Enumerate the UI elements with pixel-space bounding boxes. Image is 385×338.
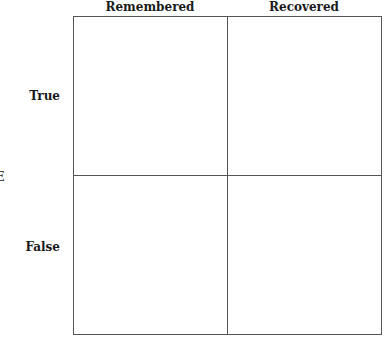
horizontal-divider xyxy=(74,175,381,176)
matrix-grid xyxy=(73,16,382,335)
cell-true-recovered xyxy=(228,17,381,175)
row-header-false: False xyxy=(0,240,60,254)
column-header-recovered: Recovered xyxy=(227,0,381,14)
cell-true-remembered xyxy=(74,17,227,175)
cell-false-remembered xyxy=(74,176,227,334)
row-header-true: True xyxy=(0,89,60,103)
cell-false-recovered xyxy=(228,176,381,334)
row-axis-label: UE xyxy=(0,170,5,184)
column-header-remembered: Remembered xyxy=(73,0,227,14)
